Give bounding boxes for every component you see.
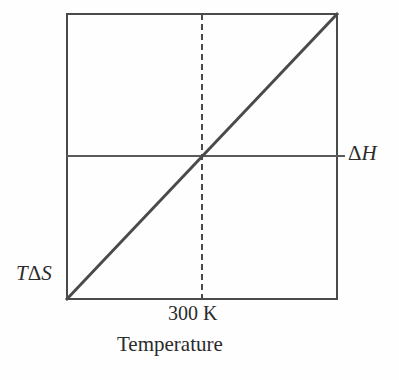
label-delta-h-op-delta: Δ bbox=[348, 141, 362, 165]
axis-label-temperature: Temperature bbox=[117, 334, 223, 355]
label-delta-h-var-h: H bbox=[362, 141, 377, 165]
label-t-delta-s-var-t: T bbox=[16, 261, 28, 285]
label-t-delta-s-op-delta: Δ bbox=[28, 261, 42, 285]
enthalpy-horizontal-line bbox=[66, 155, 345, 157]
tick-label-300k: 300 K bbox=[168, 303, 217, 323]
label-delta-h: ΔH bbox=[348, 143, 377, 164]
figure-canvas: TΔS ΔH 300 K Temperature bbox=[0, 0, 399, 380]
label-t-delta-s-var-s: S bbox=[41, 261, 52, 285]
label-t-delta-s: TΔS bbox=[16, 263, 52, 284]
reference-dashed-line-300k bbox=[201, 14, 203, 300]
